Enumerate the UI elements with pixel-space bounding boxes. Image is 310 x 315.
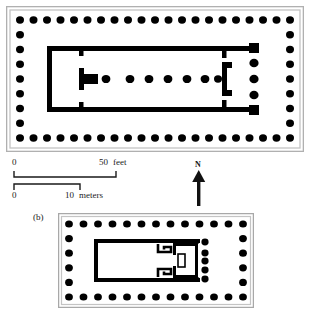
scale-bar-group: 0 50 feet 0 10 meters [12,157,172,203]
scale-feet-unit-label: feet [113,157,127,167]
plan-a-container [6,6,304,152]
plan-a-porch-columns [249,59,258,100]
scale-feet-start-label: 0 [12,157,17,167]
plan-b-inner-frame [62,217,251,305]
plan-b-container [58,213,254,308]
scale-feet-end-label: 50 [99,157,108,167]
scale-meters-end-label: 10 [65,190,74,200]
north-arrow-icon [180,160,228,208]
scale-meters-unit-label: meters [79,190,103,200]
north-arrow-group: N [180,160,228,208]
scale-meters-start-label: 0 [12,190,17,200]
scale-bar-feet [14,171,116,177]
figure-root: 0 50 feet 0 10 meters N (b) [0,0,310,315]
plan-a-drawing [6,6,304,152]
plan-b-drawing [58,213,254,308]
plan-b-label: (b) [33,212,44,222]
